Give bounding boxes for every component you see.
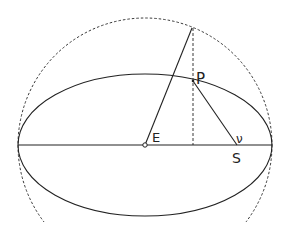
label-s: S [232,150,241,166]
bottom-mask [0,222,285,234]
label-nu: ν [236,132,243,146]
label-p: P [196,70,205,88]
center-marker [143,143,147,147]
kepler-diagram: P E ν S [0,0,285,234]
auxiliary-circle [18,18,272,234]
label-e: E [152,130,160,145]
radius-vector [193,81,237,145]
eccentric-anomaly-line [145,28,192,145]
point-p-marker [192,80,195,83]
